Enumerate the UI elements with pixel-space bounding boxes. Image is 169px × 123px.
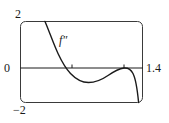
graph-figure: 2 0 −2 1.4 f″ — [0, 0, 169, 123]
plot-frame — [21, 22, 143, 103]
y-zero-label: 0 — [4, 62, 10, 74]
y-min-label: −2 — [13, 104, 26, 116]
y-max-label: 2 — [15, 8, 21, 20]
x-max-label: 1.4 — [146, 62, 161, 74]
curve-annotation-label: f″ — [59, 34, 67, 46]
